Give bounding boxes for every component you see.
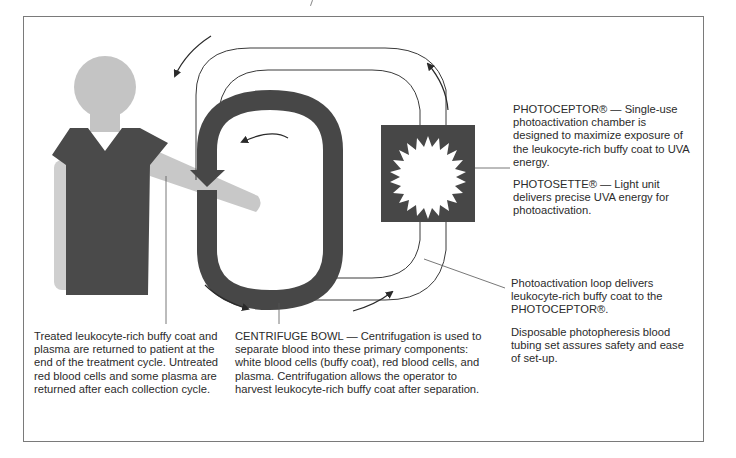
arrow-bottom-right-icon	[353, 292, 392, 311]
photoceptor-chamber	[381, 125, 475, 222]
patient-caption: Treated leukocyte-rich buffy coat and pl…	[34, 330, 219, 405]
patient-head	[74, 56, 136, 118]
photoceptor-caption: PHOTOCEPTOR® — Single-use photoactivatio…	[513, 103, 693, 227]
loop-caption: Photoactivation loop delivers leukocyte-…	[511, 277, 693, 374]
patient-figure	[52, 56, 261, 295]
centrifuge-bowl	[190, 100, 333, 300]
bowl-caption: CENTRIFUGE BOWL — Centrifugation is used…	[235, 330, 495, 405]
photoceptor-text: PHOTOCEPTOR® — Single-use photoactivatio…	[513, 103, 693, 169]
arrow-bowl-rotation-icon	[242, 134, 288, 142]
patient-neck	[90, 110, 120, 132]
photosette-text: PHOTOSETTE® — Light unit delivers precis…	[513, 178, 693, 218]
tubing-text: Disposable photopheresis blood tubing se…	[511, 326, 693, 366]
patient-shirt	[52, 128, 168, 295]
arrow-return-icon	[175, 36, 211, 76]
bowl-text: CENTRIFUGE BOWL — Centrifugation is used…	[235, 330, 495, 396]
loop-text: Photoactivation loop delivers leukocyte-…	[511, 277, 693, 317]
patient-text: Treated leukocyte-rich buffy coat and pl…	[34, 330, 219, 396]
